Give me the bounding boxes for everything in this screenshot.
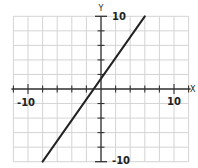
y-tick-label-neg10: -10 [112, 155, 130, 166]
x-tick-label-neg10: -10 [17, 97, 35, 108]
x-tick-label-10: 10 [167, 96, 181, 107]
y-axis-label: Y [98, 4, 104, 13]
y-tick-label-10: 10 [112, 11, 126, 22]
x-axis-label: X [190, 85, 196, 94]
axes [11, 16, 190, 161]
coordinate-plane: Y X 10 -10 -10 10 [0, 0, 198, 168]
